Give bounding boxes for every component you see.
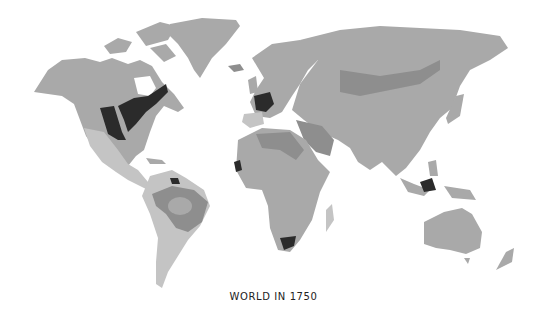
map-title: WORLD IN 1750 [0,291,547,302]
world-map [0,0,547,324]
